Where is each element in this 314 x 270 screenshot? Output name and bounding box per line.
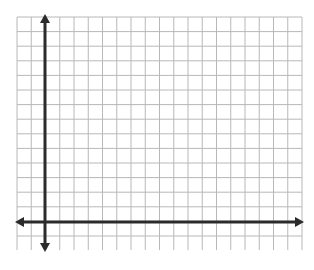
- arrow-down-icon: [40, 243, 50, 252]
- coordinate-plane: [0, 0, 314, 270]
- arrow-up-icon: [40, 14, 50, 23]
- arrow-left-icon: [15, 217, 24, 227]
- grid-lines: [17, 17, 302, 250]
- arrow-right-icon: [295, 217, 304, 227]
